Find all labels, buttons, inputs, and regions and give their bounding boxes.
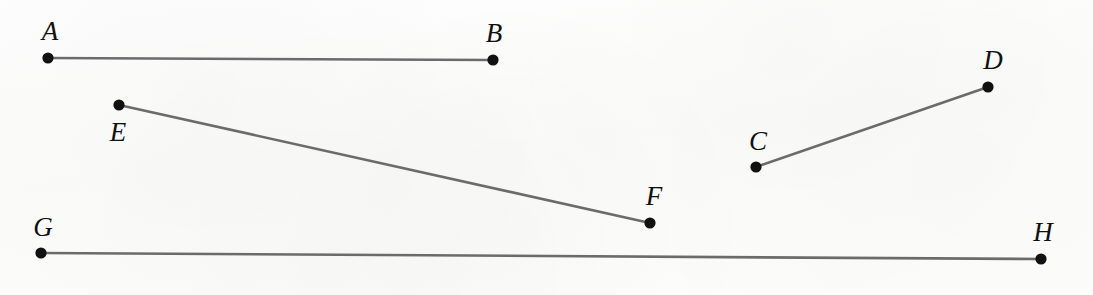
vertex-labels-group: ABCDEFGH [33, 16, 1054, 247]
vertex-label-c: C [749, 126, 768, 156]
vertex-label-a: A [40, 16, 59, 46]
vertex-dots-group [35, 52, 1046, 264]
vertex-dot-g [35, 247, 46, 258]
segments-group [41, 58, 1041, 259]
vertex-dot-h [1035, 253, 1046, 264]
vertex-label-b: B [486, 18, 503, 48]
vertex-label-f: F [645, 181, 663, 211]
vertex-dot-f [644, 217, 655, 228]
vertex-dot-a [42, 52, 53, 63]
vertex-dot-b [487, 54, 498, 65]
vertex-dot-e [113, 99, 124, 110]
vertex-dot-c [750, 161, 761, 172]
segment-ab [48, 58, 493, 60]
vertex-dot-d [982, 81, 993, 92]
vertex-label-g: G [33, 212, 53, 242]
vertex-label-d: D [982, 45, 1003, 75]
diagram-canvas: ABCDEFGH [0, 0, 1093, 295]
vertex-label-e: E [109, 117, 127, 147]
segment-gh [41, 253, 1041, 259]
vertex-label-h: H [1032, 217, 1054, 247]
segment-cd [756, 87, 988, 167]
line-segments-figure: ABCDEFGH [0, 0, 1093, 295]
segment-ef [119, 105, 650, 223]
